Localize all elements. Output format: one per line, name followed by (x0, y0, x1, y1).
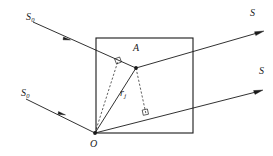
scattered-beam-upper-arrowhead (255, 31, 265, 36)
label-position-vector: rj (120, 88, 126, 98)
label-scattered-beam-upper: S (250, 8, 255, 18)
path-difference-line-lower (136, 68, 146, 114)
position-vector-oa (95, 68, 136, 133)
label-incident-upper-subscript: 0 (31, 16, 34, 23)
label-point-a: A (133, 43, 139, 53)
label-position-vector-subscript: j (124, 92, 126, 100)
figure-canvas: S0 S0 S S A O rj (0, 0, 273, 156)
sample-box (96, 38, 193, 133)
point-o-marker (93, 131, 97, 135)
diagram-svg (0, 0, 273, 156)
label-incident-beam-lower: S0 (21, 88, 29, 98)
path-difference-line-upper (95, 61, 118, 133)
label-incident-lower-subscript: 0 (26, 92, 29, 99)
label-scattered-beam-lower: S (259, 66, 264, 76)
incident-beam-lower (26, 99, 96, 134)
incident-beam-lower-arrowhead (58, 112, 66, 115)
scattered-beam-lower-arrowhead (254, 90, 264, 94)
point-a-marker (134, 66, 138, 70)
label-point-o: O (90, 139, 97, 149)
label-incident-beam-upper: S0 (26, 12, 34, 22)
